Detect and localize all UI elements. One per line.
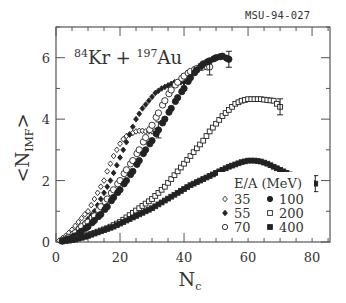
x-tick-label: 60	[240, 250, 257, 265]
x-axis-label: Nc	[179, 268, 202, 293]
x-tick-label: 20	[112, 250, 129, 265]
legend-label: 200	[279, 206, 304, 221]
legend-label: 100	[279, 192, 304, 207]
y-axis-label: <NIMF>	[12, 113, 36, 182]
y-tick-label: 4	[42, 112, 50, 127]
legend-label: 400	[279, 220, 304, 235]
legend-label: 35	[234, 192, 251, 207]
x-tick-label: 40	[176, 250, 193, 265]
y-tick-label: 2	[42, 174, 50, 189]
legend-label: 55	[234, 206, 251, 221]
reaction-title: 84Kr + 197Au	[74, 47, 182, 68]
legend-title: E/A (MeV)	[234, 176, 302, 191]
chart: 0204060800246 Nc<NIMF>84Kr + 197Au E/A (…	[0, 0, 346, 303]
x-tick-label: 0	[52, 250, 60, 265]
y-tick-label: 6	[42, 51, 50, 66]
x-tick-label: 80	[304, 250, 321, 265]
legend: E/A (MeV)355570100200400	[218, 172, 314, 238]
legend-label: 70	[234, 220, 251, 235]
y-tick-label: 0	[42, 235, 50, 250]
